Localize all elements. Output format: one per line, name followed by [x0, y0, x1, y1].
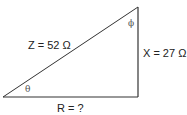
vertical-side-label: X = 27 Ω [143, 47, 186, 59]
theta-angle-label: θ [25, 84, 30, 94]
phi-angle-label: ϕ [128, 18, 134, 28]
hypotenuse-line [3, 7, 138, 97]
impedance-triangle-diagram: Z = 52 Ω X = 27 Ω R = ? θ ϕ [0, 0, 187, 115]
base-label: R = ? [57, 102, 84, 114]
hypotenuse-label: Z = 52 Ω [28, 39, 71, 51]
